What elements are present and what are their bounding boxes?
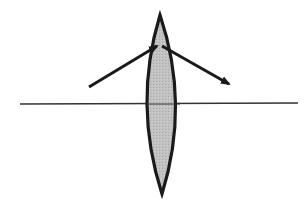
lens-diagram: Converging lens refracting a light ray (0, 0, 306, 200)
diagram-svg (0, 0, 306, 200)
